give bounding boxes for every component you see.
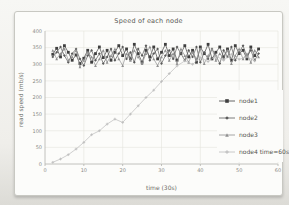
chart-title: Speed of each node: [15, 17, 282, 25]
legend-item: node3: [219, 126, 283, 143]
photo-background: 0501001502002503003504000102030405060 Sp…: [0, 0, 289, 205]
x-axis-title: time (30s): [45, 184, 278, 191]
legend: node1node2node3node4 time=60s: [217, 90, 283, 162]
y-tick-label: 50: [36, 144, 42, 150]
x-tick-label: 10: [81, 167, 87, 173]
legend-label: node3: [239, 131, 258, 138]
x-tick-label: 50: [236, 167, 242, 173]
triangle-marker-icon: [219, 131, 237, 139]
square-marker-icon: [219, 97, 237, 105]
y-tick-label: 150: [32, 111, 42, 117]
legend-item: node4 time=60s: [219, 143, 283, 160]
legend-item: node2: [219, 109, 283, 126]
x-tick-label: 40: [197, 167, 203, 173]
y-tick-label: 200: [32, 94, 42, 100]
legend-label: node2: [239, 114, 258, 121]
x-tick-label: 20: [119, 167, 125, 173]
x-tick-label: 0: [43, 167, 46, 173]
chart-card: 0501001502002503003504000102030405060 Sp…: [14, 11, 283, 196]
legend-label: node4 time=60s: [239, 148, 289, 155]
diamond-marker-icon: [219, 114, 237, 122]
y-axis-title: read speed (mb/s): [17, 63, 24, 137]
y-tick-label: 400: [32, 28, 42, 34]
x-tick-label: 60: [275, 167, 281, 173]
y-tick-label: 350: [32, 44, 42, 50]
x-tick-label: 30: [158, 167, 164, 173]
y-tick-label: 100: [32, 128, 42, 134]
y-tick-label: 0: [39, 161, 42, 167]
legend-item: node1: [219, 92, 283, 109]
legend-label: node1: [239, 97, 258, 104]
plus-marker-icon: [219, 148, 237, 156]
y-tick-label: 250: [32, 78, 42, 84]
y-tick-label: 300: [32, 61, 42, 67]
